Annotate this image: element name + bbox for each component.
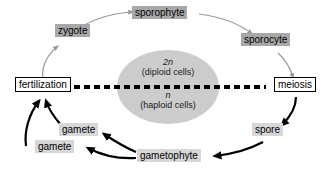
node-zygote[interactable]: zygote — [55, 25, 90, 36]
diploid-caption: (diploid cells) — [142, 67, 195, 77]
gamete-lower-label: gamete — [35, 140, 74, 153]
zygote-label: zygote — [55, 24, 90, 37]
node-gametophyte[interactable]: gametophyte — [137, 150, 201, 161]
arrow-spore-to-gametophyte — [215, 142, 263, 156]
arrow-sporophyte-to-sporocyte — [199, 14, 252, 34]
spore-label: spore — [252, 123, 283, 136]
arrow-gametophyte-to-gamete-upper — [104, 134, 136, 152]
sporophyte-label: sporophyte — [132, 6, 187, 19]
node-gamete-lower[interactable]: gamete — [35, 141, 74, 152]
haploid-symbol: n — [165, 90, 170, 100]
fertilization-label: fertilization — [15, 77, 71, 92]
arrow-sporocyte-to-meiosis — [278, 53, 293, 78]
haploid-caption: (haploid cells) — [140, 100, 196, 110]
gametophyte-label: gametophyte — [137, 149, 201, 162]
sporocyte-label: sporocyte — [241, 33, 290, 46]
node-sporocyte[interactable]: sporocyte — [241, 34, 290, 45]
diploid-symbol: 2n — [163, 57, 173, 67]
arrow-fertilization-to-zygote — [43, 46, 58, 78]
diploid-annotation: 2n (diploid cells) — [118, 57, 218, 77]
node-gamete-upper[interactable]: gamete — [59, 124, 98, 135]
node-meiosis[interactable]: meiosis — [274, 79, 316, 90]
haploid-annotation: n (haploid cells) — [118, 90, 218, 110]
arrow-gamete-upper-to-fertilization — [46, 101, 61, 125]
arrow-meiosis-to-spore — [282, 97, 296, 125]
node-sporophyte[interactable]: sporophyte — [132, 7, 187, 18]
gamete-upper-label: gamete — [59, 123, 98, 136]
life-cycle-diagram: sporophyte zygote sporocyte fertilizatio… — [0, 0, 334, 172]
node-spore[interactable]: spore — [252, 124, 283, 135]
meiosis-label: meiosis — [274, 77, 316, 92]
node-fertilization[interactable]: fertilization — [15, 79, 71, 90]
